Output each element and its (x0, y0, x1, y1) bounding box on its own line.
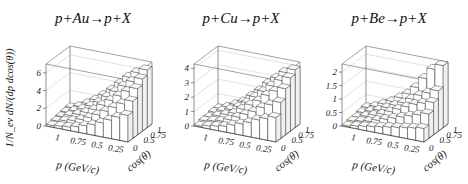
p-tick-label: 0.75 (218, 135, 235, 147)
lego-plot: 024610.750.50.2500.50.751p (GeV/c)cos(θ) (18, 0, 168, 184)
z-tick-label: 0 (37, 121, 42, 131)
p-tick-label: 0.25 (255, 143, 272, 155)
p-tick-label: 1 (351, 132, 357, 143)
p-tick-label: 0.5 (387, 139, 400, 151)
cos-tick-label: 1 (305, 125, 310, 135)
z-tick-label: 4 (185, 63, 190, 73)
z-tick-label: 6 (37, 68, 42, 78)
chart-panel-au: p+Au→p+X 024610.750.50.2500.50.751p (GeV… (18, 0, 168, 184)
z-tick-label: 1.5 (326, 81, 338, 91)
y-axis-label: 1/N_ev dN/(dp dcos(θ)) (2, 38, 16, 158)
p-tick-label: 0.25 (403, 143, 420, 155)
p-axis-label: p (GeV/c) (203, 158, 249, 177)
cos-axis-label: cos(θ) (420, 147, 450, 174)
p-tick-label: 0.75 (366, 135, 383, 147)
p-axis-label: p (GeV/c) (351, 158, 397, 177)
z-tick-label: 0 (185, 121, 190, 131)
p-tick-label: 1 (55, 132, 61, 143)
z-tick-label: 2 (185, 92, 190, 102)
cos-axis-label: cos(θ) (272, 147, 302, 174)
p-tick-label: 0.75 (70, 135, 87, 147)
z-tick-label: 0 (333, 121, 338, 131)
z-tick-label: 2 (333, 67, 338, 77)
z-tick-label: 0.5 (326, 108, 338, 118)
p-tick-label: 1 (203, 132, 209, 143)
cos-tick-label: 0 (429, 143, 434, 153)
z-tick-label: 2 (37, 103, 42, 113)
p-axis-label: p (GeV/c) (55, 158, 101, 177)
p-tick-label: 0.25 (107, 143, 124, 155)
cos-axis-label: cos(θ) (124, 147, 154, 174)
y-axis-label-text: 1/N_ev dN/(dp dcos(θ)) (4, 48, 15, 147)
z-tick-label: 1 (185, 107, 190, 117)
lego-plot: 0123410.750.50.2500.50.751p (GeV/c)cos(θ… (166, 0, 316, 184)
z-tick-label: 4 (37, 86, 42, 96)
z-tick-label: 1 (333, 94, 338, 104)
z-tick-label: 3 (184, 78, 190, 88)
lego-plot: 00.511.5210.750.50.2500.50.751p (GeV/c)c… (314, 0, 464, 184)
p-tick-label: 0.5 (239, 139, 252, 151)
cos-tick-label: 1 (453, 125, 458, 135)
cos-tick-label: 1 (157, 125, 162, 135)
p-tick-label: 0.5 (91, 139, 104, 151)
cos-tick-label: 0 (281, 143, 286, 153)
cos-tick-label: 0 (133, 143, 138, 153)
chart-panel-cu: p+Cu→p+X 0123410.750.50.2500.50.751p (Ge… (166, 0, 316, 184)
chart-panel-be: p+Be→p+X 00.511.5210.750.50.2500.50.751p… (314, 0, 464, 184)
